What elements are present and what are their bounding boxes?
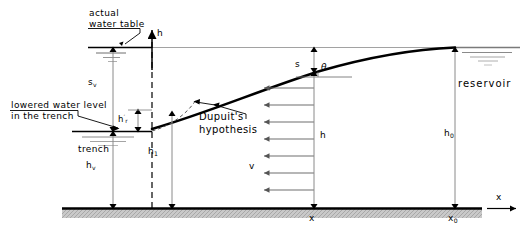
- dim-s: [311, 47, 318, 74]
- label-sv: sv: [88, 77, 97, 88]
- label-lowered-water-level: lowered water level in the trench: [11, 100, 107, 123]
- label-trench: trench: [78, 144, 109, 155]
- label-h0: h0: [444, 128, 454, 139]
- dim-sv: [110, 47, 117, 133]
- dupuit-flow-diagram: actual water table h lowered water level…: [0, 0, 527, 242]
- label-h1: h1: [148, 146, 158, 157]
- label-axis-h: h: [157, 28, 163, 39]
- label-velocity: v: [249, 161, 255, 172]
- label-dupuit-hypothesis: Dupuit's hypothesis: [199, 111, 257, 136]
- label-s: s: [295, 59, 300, 70]
- label-h-at-x: h: [320, 130, 326, 141]
- label-hr-prime: h′r: [118, 113, 128, 125]
- label-theta: θ: [321, 62, 327, 73]
- label-x-at-section: x: [309, 213, 315, 224]
- label-reservoir: reservoir: [458, 78, 511, 91]
- dim-hr-prime: [128, 109, 152, 133]
- dim-hv: [110, 131, 117, 210]
- label-hv: hv: [86, 160, 96, 171]
- reservoir-surface: [455, 48, 520, 66]
- dim-h-at-x: [311, 71, 318, 210]
- label-axis-x: x: [496, 192, 502, 203]
- label-actual-water-table: actual water table: [89, 8, 145, 31]
- label-x0: x0: [448, 213, 458, 224]
- impervious-base: [62, 209, 482, 219]
- dim-h1: [169, 111, 176, 210]
- velocity-arrow-field: [264, 88, 314, 190]
